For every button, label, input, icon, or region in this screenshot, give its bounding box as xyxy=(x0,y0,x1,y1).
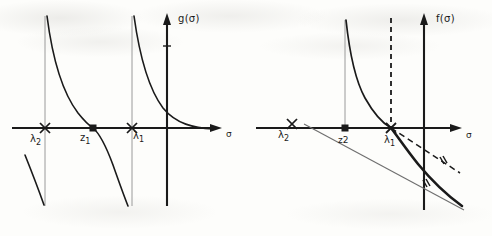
curve-branch-left-g xyxy=(25,155,44,205)
x-axis-label-f: σ xyxy=(466,131,472,140)
label-z-1-g: z1 xyxy=(80,133,90,143)
label-z-2-f: z2 xyxy=(338,136,348,145)
figure-sheet: g(σ) σ λ2 z1 λ1 xyxy=(0,0,492,236)
label-lambda-1-g: λ1 xyxy=(133,131,144,141)
label-lambda-2-g-sub: 2 xyxy=(36,138,41,147)
tangent-line-dashed-f xyxy=(391,128,460,173)
label-lambda-1-f-sub: 1 xyxy=(390,139,395,148)
curve-branch-middle-g xyxy=(47,16,128,206)
label-lambda-2-f-sub: 2 xyxy=(284,134,289,143)
label-lambda-1-g-sub: 1 xyxy=(139,135,144,144)
panel-g-svg xyxy=(0,0,246,236)
curve-branch-right-g xyxy=(134,16,213,129)
panel-g-sigma: g(σ) σ λ2 z1 λ1 xyxy=(0,0,246,236)
x-axis-label-g: σ xyxy=(226,130,232,139)
hatch-mark-dashed-f xyxy=(440,156,447,164)
label-z-1-g-sub: 1 xyxy=(85,137,90,146)
y-axis-label-g: g(σ) xyxy=(178,14,200,24)
label-lambda-2-f: λ2 xyxy=(278,130,289,140)
marker-z-1-g xyxy=(90,125,97,132)
panel-f-sigma: f(σ) σ λ2 z2 λ1 xyxy=(246,0,492,236)
label-lambda-2-g: λ2 xyxy=(30,134,41,144)
y-axis-label-f: f(σ) xyxy=(436,14,455,24)
label-lambda-1-f: λ1 xyxy=(384,135,395,145)
panel-f-svg xyxy=(246,0,492,236)
curve-branch-f xyxy=(346,20,391,128)
marker-z-2-f xyxy=(342,125,349,132)
